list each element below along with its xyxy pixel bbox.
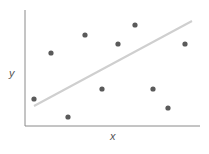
data-point <box>31 96 36 101</box>
data-point <box>99 86 104 91</box>
data-point <box>48 50 53 55</box>
scatter-chart: y x <box>0 0 209 154</box>
data-point <box>150 86 155 91</box>
trend-line <box>34 21 192 106</box>
data-point <box>65 114 70 119</box>
data-point <box>182 41 187 46</box>
data-point <box>82 32 87 37</box>
x-axis-label: x <box>109 130 116 142</box>
data-point <box>115 41 120 46</box>
y-axis-label: y <box>8 67 16 79</box>
data-point <box>132 22 137 27</box>
data-point <box>165 105 170 110</box>
